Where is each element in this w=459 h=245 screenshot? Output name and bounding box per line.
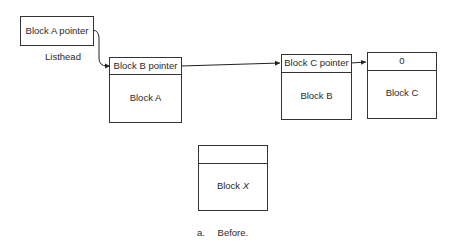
listhead-field: Block A pointer: [21, 25, 93, 36]
block-a-name: Block A: [110, 92, 181, 103]
block-x-name-prefix: Block: [217, 180, 243, 191]
block-a: Block B pointer Block A: [109, 57, 182, 123]
block-c-name: Block C: [368, 87, 436, 98]
block-c: 0 Block C: [367, 52, 437, 119]
caption-letter: a.: [197, 227, 205, 238]
block-a-pointer-field: Block B pointer: [110, 58, 181, 75]
arrow-block-b-to-block-c: [351, 62, 366, 63]
block-b: Block C pointer Block B: [281, 54, 352, 120]
block-x-name: Block X: [199, 180, 267, 191]
arrow-listhead-to-block-a: [93, 30, 110, 66]
block-b-name: Block B: [282, 90, 351, 101]
listhead-box: Block A pointer: [20, 16, 94, 46]
listhead-label: Listhead: [45, 51, 81, 62]
block-b-pointer-field: Block C pointer: [282, 55, 351, 73]
block-c-pointer-field: 0: [368, 53, 436, 71]
figure-caption: a. Before.: [197, 227, 248, 238]
block-x: Block X: [198, 145, 268, 211]
arrow-block-a-to-block-b: [181, 63, 280, 66]
block-x-pointer-field: [199, 146, 267, 164]
caption-text: Before.: [218, 227, 249, 238]
block-x-name-var: X: [243, 180, 249, 191]
